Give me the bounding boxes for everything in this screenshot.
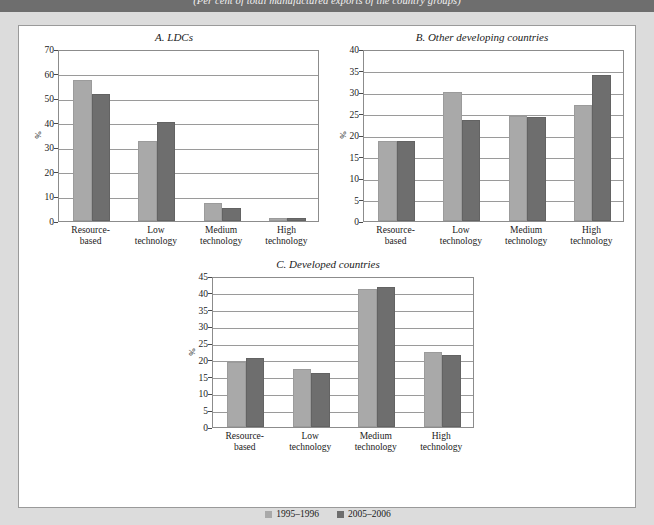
gridline	[364, 72, 623, 73]
y-axis-tick-mark	[359, 200, 363, 201]
chart-c-title: C. Developed countries	[173, 258, 483, 270]
legend-item: 1995–1996	[265, 509, 319, 519]
y-axis-tick-mark	[208, 428, 212, 429]
x-axis-category-label: Hightechnology	[559, 225, 624, 247]
x-axis-category-label: Hightechnology	[254, 225, 319, 247]
legend-label: 2005–2006	[348, 509, 391, 519]
bar-2005-2006	[246, 358, 265, 427]
y-axis-tick-label: 20	[350, 131, 360, 141]
y-axis-tick-label: 30	[350, 88, 360, 98]
bar-1995-1996	[424, 352, 443, 427]
bar-1995-1996	[73, 80, 92, 221]
y-axis-tick-mark	[54, 74, 58, 75]
y-axis-tick-label: 10	[199, 389, 209, 399]
y-axis-tick-mark	[359, 157, 363, 158]
chart-a-plot-area	[58, 50, 319, 222]
bar-2005-2006	[311, 373, 330, 427]
header-subtitle: (Per cent of total manufactured exports …	[0, 0, 654, 6]
chart-legend: 1995–19962005–2006	[19, 509, 637, 519]
y-axis-tick-label: 20	[199, 356, 209, 366]
legend-label: 1995–1996	[276, 509, 319, 519]
bar-1995-1996	[443, 92, 462, 221]
y-axis-tick-mark	[208, 293, 212, 294]
legend-swatch-icon	[337, 511, 344, 518]
bar-1995-1996	[269, 218, 288, 221]
y-axis-label: %	[33, 125, 43, 145]
y-axis-tick-label: 15	[199, 373, 209, 383]
y-axis-tick-label: 45	[199, 272, 209, 282]
y-axis-tick-mark	[54, 50, 58, 51]
y-axis-tick-label: 40	[45, 119, 55, 129]
y-axis-tick-mark	[208, 360, 212, 361]
header-band: (Per cent of total manufactured exports …	[0, 0, 654, 12]
y-axis-tick-label: 10	[350, 174, 360, 184]
y-axis-tick-label: 30	[199, 322, 209, 332]
bar-2005-2006	[592, 75, 611, 221]
x-axis-category-label: Hightechnology	[409, 431, 475, 453]
y-axis-tick-mark	[54, 197, 58, 198]
chart-b-title: B. Other developing countries	[327, 31, 637, 43]
chart-c-plot-area	[212, 277, 474, 428]
bar-2005-2006	[222, 208, 241, 222]
gridline	[59, 75, 318, 76]
bar-1995-1996	[204, 203, 223, 221]
y-axis-tick-mark	[54, 99, 58, 100]
gridline	[213, 311, 473, 312]
y-axis-tick-label: 30	[45, 143, 55, 153]
y-axis-tick-label: 40	[199, 289, 209, 299]
y-axis-tick-label: 25	[350, 110, 360, 120]
figure-panel: A. LDCs 010203040506070%Resource-basedLo…	[18, 25, 636, 508]
bar-2005-2006	[377, 287, 396, 427]
bar-2005-2006	[462, 120, 481, 221]
bar-1995-1996	[138, 141, 157, 221]
y-axis-tick-mark	[359, 179, 363, 180]
y-axis-tick-label: 25	[199, 339, 209, 349]
bar-1995-1996	[293, 369, 312, 427]
chart-b-plot-area	[363, 50, 624, 222]
bar-2005-2006	[442, 355, 461, 427]
bar-2005-2006	[157, 122, 176, 222]
y-axis-tick-mark	[359, 222, 363, 223]
chart-b-other-developing-countries: B. Other developing countries 0510152025…	[327, 31, 637, 246]
x-axis-category-label: Lowtechnology	[123, 225, 188, 247]
y-axis-tick-mark	[54, 123, 58, 124]
y-axis-tick-mark	[54, 148, 58, 149]
x-axis-category-label: Mediumtechnology	[189, 225, 254, 247]
y-axis-tick-label: 35	[350, 67, 360, 77]
y-axis-label: %	[187, 342, 197, 362]
y-axis-tick-mark	[208, 411, 212, 412]
bar-2005-2006	[397, 141, 416, 221]
y-axis-tick-mark	[54, 222, 58, 223]
bar-1995-1996	[358, 289, 377, 427]
y-axis-tick-mark	[359, 114, 363, 115]
y-axis-tick-label: 40	[350, 45, 360, 55]
bar-2005-2006	[287, 218, 306, 221]
y-axis-tick-mark	[208, 344, 212, 345]
y-axis-tick-mark	[359, 71, 363, 72]
y-axis-tick-mark	[359, 93, 363, 94]
legend-swatch-icon	[265, 511, 272, 518]
x-axis-category-label: Lowtechnology	[278, 431, 344, 453]
bar-1995-1996	[509, 116, 528, 221]
x-axis-category-label: Resource-based	[363, 225, 428, 247]
bar-1995-1996	[574, 105, 593, 221]
y-axis-tick-mark	[208, 277, 212, 278]
y-axis-tick-label: 70	[45, 45, 55, 55]
gridline	[364, 94, 623, 95]
x-axis-category-label: Resource-based	[58, 225, 123, 247]
y-axis-tick-label: 60	[45, 70, 55, 80]
chart-a-title: A. LDCs	[19, 31, 329, 43]
y-axis-tick-mark	[208, 310, 212, 311]
y-axis-tick-mark	[359, 50, 363, 51]
chart-c-developed-countries: C. Developed countries 05101520253035404…	[173, 258, 483, 488]
bar-2005-2006	[527, 117, 546, 221]
bar-2005-2006	[92, 94, 111, 221]
y-axis-tick-mark	[208, 327, 212, 328]
y-axis-tick-mark	[208, 394, 212, 395]
x-axis-category-label: Lowtechnology	[428, 225, 493, 247]
y-axis-tick-mark	[208, 377, 212, 378]
gridline	[213, 294, 473, 295]
y-axis-tick-mark	[54, 172, 58, 173]
bar-1995-1996	[227, 362, 246, 427]
y-axis-tick-label: 10	[45, 192, 55, 202]
